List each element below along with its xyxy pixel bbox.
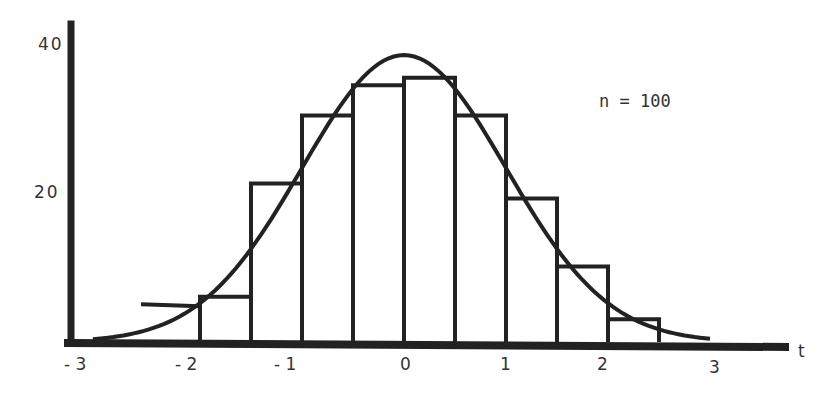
x-tick-2: 2 <box>597 354 608 374</box>
histogram-chart: 40 20 - 3 - 2 - 1 0 1 2 3 t n = 100 <box>0 0 840 397</box>
histogram-bar <box>141 304 200 306</box>
x-tick-0: 0 <box>400 354 411 374</box>
x-tick-minus-1: - 1 <box>274 354 296 374</box>
x-tick-minus-2: - 2 <box>175 354 197 374</box>
y-tick-40: 40 <box>38 34 64 54</box>
x-tick-3: 3 <box>709 357 720 377</box>
histogram-bar <box>608 319 659 342</box>
histogram-bar <box>455 116 506 343</box>
axes <box>68 24 785 347</box>
x-tick-1: 1 <box>500 354 511 374</box>
histogram-bar <box>506 199 557 342</box>
x-tick-minus-3: - 3 <box>64 354 86 374</box>
histogram-bar <box>302 116 353 343</box>
y-tick-20: 20 <box>34 182 60 202</box>
x-axis-label: t <box>798 341 805 361</box>
sample-size-annotation: n = 100 <box>599 91 671 111</box>
histogram-bar <box>404 78 455 342</box>
histogram-bar <box>200 297 251 342</box>
histogram-bar <box>353 85 404 342</box>
histogram-bars <box>141 78 659 342</box>
x-axis <box>68 343 785 347</box>
